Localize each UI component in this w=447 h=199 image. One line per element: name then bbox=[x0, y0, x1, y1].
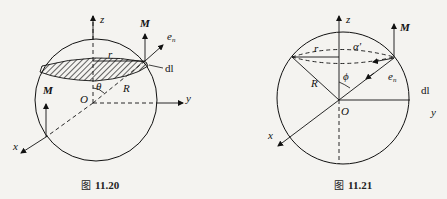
dl-pointer bbox=[149, 65, 163, 68]
origin-label: O bbox=[341, 105, 349, 117]
x-axis bbox=[278, 100, 339, 146]
r-label: r bbox=[108, 48, 113, 60]
M-label: M bbox=[399, 21, 411, 33]
z-axis-label: z bbox=[99, 13, 105, 25]
M-left-label: M bbox=[42, 84, 54, 96]
theta-label: θ bbox=[96, 80, 102, 92]
en-label: en bbox=[167, 30, 176, 44]
x-axis bbox=[46, 103, 93, 137]
sphere-outline bbox=[35, 39, 157, 161]
latitude-ellipse-back bbox=[292, 50, 394, 58]
x-axis-solid bbox=[21, 137, 46, 153]
M-top-label: M bbox=[139, 17, 151, 29]
alpha-label: α' bbox=[353, 40, 362, 52]
caption-number: 11.21 bbox=[348, 179, 372, 191]
origin-label: O bbox=[80, 93, 88, 105]
figure-11-20: z y x O M M en dl r R θ 图 11.20 bbox=[12, 13, 191, 191]
x-axis-label: x bbox=[267, 129, 273, 141]
R-label: R bbox=[310, 77, 318, 89]
figures-canvas: z y x O M M en dl r R θ 图 11.20 bbox=[0, 0, 447, 199]
y-axis-label: y bbox=[185, 92, 191, 104]
phi-label: ϕ bbox=[343, 70, 349, 82]
x-axis-label: x bbox=[12, 140, 18, 152]
caption-number: 11.20 bbox=[95, 179, 120, 191]
phi-arc bbox=[339, 82, 350, 88]
en-arrow bbox=[366, 73, 374, 79]
R-label: R bbox=[122, 82, 130, 94]
caption-prefix: 图 bbox=[81, 180, 91, 191]
dl-label: dl bbox=[165, 62, 174, 74]
y-axis-label: y bbox=[430, 106, 436, 118]
en-vector bbox=[145, 45, 163, 61]
latitude-ellipse-front bbox=[292, 57, 394, 64]
dl-label: dl bbox=[421, 84, 430, 96]
sphere-outline bbox=[277, 32, 409, 164]
en-label: en bbox=[388, 70, 397, 84]
z-axis-label: z bbox=[345, 13, 351, 25]
figure-11-21: z y x O M en dl r R ϕ α' 图 11.21 bbox=[267, 13, 436, 191]
r-label: r bbox=[314, 42, 319, 54]
caption-prefix: 图 bbox=[334, 180, 344, 191]
